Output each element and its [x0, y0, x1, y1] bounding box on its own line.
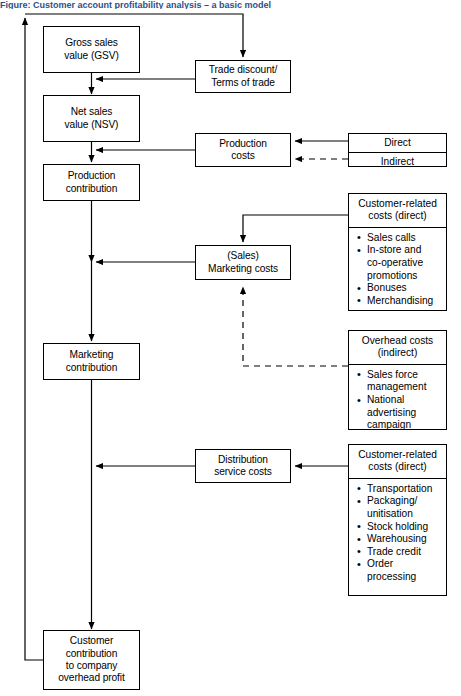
node-line: contribution [66, 648, 117, 660]
list-item: Warehousing [367, 533, 443, 546]
node-line: value (GSV) [64, 50, 118, 62]
node-line: overhead profit [58, 672, 124, 684]
node-net-sales-value[interactable]: Net sales value (NSV) [43, 95, 140, 142]
panel-head-line: Overhead costs [362, 335, 433, 346]
list-item: Sales calls [367, 232, 443, 245]
node-line: Customer [70, 635, 113, 647]
panel-head-line: costs (direct) [368, 210, 426, 221]
node-line: service costs [214, 466, 272, 478]
panel-head-line: (indirect) [378, 347, 418, 358]
node-production-costs[interactable]: Production costs [195, 133, 291, 167]
list-item: Bonuses [367, 282, 443, 295]
panel-header: Customer-related costs (direct) [349, 194, 446, 228]
panel-body: Sales force management National advertis… [349, 365, 446, 436]
node-marketing-contribution[interactable]: Marketing contribution [43, 343, 140, 380]
list-item: Stock holding [367, 521, 443, 534]
node-line: Distribution [218, 454, 268, 466]
panel-body: Transportation Packaging/ unitisation St… [349, 479, 446, 588]
panel-customer-related-distribution[interactable]: Customer-related costs (direct) Transpor… [348, 444, 447, 596]
node-marketing-costs[interactable]: (Sales) Marketing costs [195, 245, 291, 280]
list-item: Sales force management [367, 369, 443, 394]
list-item: National advertising campaign [367, 394, 443, 432]
panel-overhead-indirect[interactable]: Overhead costs (indirect) Sales force ma… [348, 330, 447, 430]
connector-loop-bottom [25, 18, 43, 660]
node-line: Net sales [71, 106, 113, 118]
cost-split-direct[interactable]: Direct [349, 134, 446, 153]
node-trade-discount[interactable]: Trade discount/ Terms of trade [195, 60, 291, 93]
node-customer-contribution[interactable]: Customer contribution to company overhea… [43, 630, 140, 690]
panel-head-line: Customer-related [358, 449, 437, 460]
node-line: Production [219, 138, 267, 150]
node-line: Terms of trade [211, 77, 275, 89]
list-item: Transportation [367, 483, 443, 496]
connector-custcosts-marketing [243, 215, 348, 242]
list-item: Order processing [367, 558, 443, 583]
node-production-contribution[interactable]: Production contribution [43, 164, 140, 201]
panel-head-line: Customer-related [358, 198, 437, 209]
node-line: Marketing [70, 349, 114, 361]
list-item: Merchandising [367, 295, 443, 308]
node-line: contribution [66, 183, 117, 195]
node-line: Gross sales [65, 37, 118, 49]
connector-overhead-marketing [243, 287, 348, 366]
list-item: In-store and co-operative promotions [367, 244, 443, 282]
node-cost-split[interactable]: Direct Indirect [348, 133, 447, 167]
cost-split-indirect[interactable]: Indirect [349, 153, 446, 171]
node-line: Trade discount/ [209, 64, 277, 76]
node-gross-sales-value[interactable]: Gross sales value (GSV) [43, 26, 140, 73]
node-line: costs [231, 150, 254, 162]
panel-header: Customer-related costs (direct) [349, 445, 446, 479]
figure-title: Figure: Customer account profitability a… [0, 0, 461, 9]
panel-customer-related-marketing[interactable]: Customer-related costs (direct) Sales ca… [348, 193, 447, 311]
node-line: contribution [66, 362, 117, 374]
node-line: Marketing costs [208, 263, 278, 275]
panel-head-line: costs (direct) [368, 461, 426, 472]
list-item: Packaging/ unitisation [367, 495, 443, 520]
figure-canvas: Figure: Customer account profitability a… [0, 0, 461, 696]
node-distribution-service-costs[interactable]: Distribution service costs [195, 449, 291, 483]
panel-header: Overhead costs (indirect) [349, 331, 446, 365]
node-line: Production [68, 170, 116, 182]
panel-body: Sales calls In-store and co-operative pr… [349, 228, 446, 312]
node-line: to company [66, 660, 118, 672]
node-line: (Sales) [227, 250, 259, 262]
list-item: Trade credit [367, 546, 443, 559]
node-line: value (NSV) [65, 119, 119, 131]
